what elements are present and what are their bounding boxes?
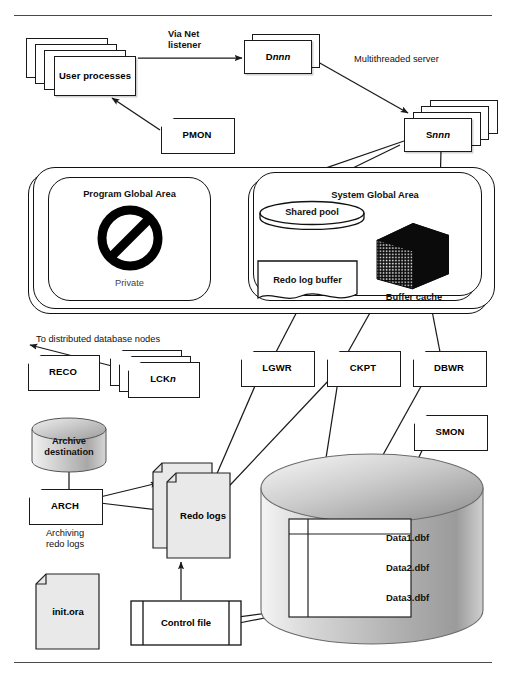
lgwr-label: LGWR (241, 351, 313, 385)
server-label: Snnn (405, 119, 471, 151)
archive-destination-label: Archive destination (30, 436, 108, 457)
lckn-process-stack[interactable]: LCKn (110, 350, 202, 400)
dispatcher-card-front[interactable]: Dnnn (244, 40, 312, 74)
smon-label: SMON (414, 415, 486, 449)
arch-process[interactable]: ARCH (29, 489, 101, 523)
dispatcher-label: Dnnn (245, 41, 311, 73)
multithreaded-server-annotation: Multithreaded server (354, 54, 484, 65)
buffer-cache-label: Buffer cache (368, 292, 460, 303)
pga-title: Program Global Area (48, 189, 211, 200)
control-file-label: Control file (130, 600, 242, 646)
lckn-card-front[interactable]: LCKn (128, 362, 198, 396)
pmon-process[interactable]: PMON (161, 118, 233, 152)
redo-log-buffer-label: Redo log buffer (257, 275, 358, 286)
redo-logs-label: Redo logs (166, 472, 240, 560)
ckpt-process[interactable]: CKPT (327, 351, 399, 385)
lckn-label: LCKn (128, 362, 198, 396)
archiving-redo-logs-annotation: Archiving redo logs (22, 528, 108, 550)
reco-process[interactable]: RECO (28, 355, 98, 389)
no-access-icon (95, 203, 165, 273)
datafile-label-1: Data1.dbf (386, 532, 429, 543)
server-process-stack[interactable]: Snnn (404, 100, 502, 158)
ckpt-label: CKPT (327, 351, 399, 385)
diagram-canvas: User processes Via Net listener Dnnn Mul… (0, 0, 506, 677)
lgwr-process[interactable]: LGWR (241, 351, 313, 385)
dispatcher-process-stack[interactable]: Dnnn (244, 34, 324, 84)
buffer-cache-cube-icon[interactable] (376, 222, 450, 290)
server-label-suffix: nnn (432, 130, 450, 141)
server-card-front[interactable]: Snnn (404, 118, 472, 152)
dbwr-label: DBWR (413, 351, 485, 385)
dispatcher-label-prefix: D (266, 52, 273, 63)
pmon-label: PMON (161, 118, 233, 152)
bottom-divider-rule (14, 662, 492, 663)
user-processes-stack[interactable]: User processes (26, 38, 138, 98)
redo-logs-stack[interactable]: Redo logs (152, 462, 242, 560)
datafile-label-3: Data3.dbf (386, 592, 429, 603)
dbwr-process[interactable]: DBWR (413, 351, 485, 385)
lckn-label-prefix: LCK (150, 374, 170, 385)
smon-process[interactable]: SMON (414, 415, 486, 449)
lckn-label-suffix: n (170, 374, 176, 385)
user-processes-card-front[interactable]: User processes (54, 56, 136, 96)
user-processes-label: User processes (55, 57, 135, 95)
arch-label: ARCH (29, 489, 101, 523)
pga-private-label: Private (48, 278, 211, 289)
datafile-label-2: Data2.dbf (386, 562, 429, 573)
distributed-nodes-annotation: To distributed database nodes (36, 334, 236, 345)
shared-pool-label: Shared pool (258, 207, 366, 218)
init-ora-label: init.ora (35, 573, 101, 651)
dispatcher-label-suffix: nnn (273, 52, 291, 63)
top-divider-rule (14, 15, 492, 16)
reco-label: RECO (28, 355, 98, 389)
via-net-listener-annotation: Via Net listener (168, 29, 248, 51)
